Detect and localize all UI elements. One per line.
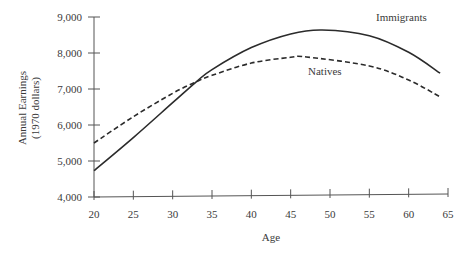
y-tick-label: 8,000 bbox=[57, 47, 82, 59]
immigrants-label: Immigrants bbox=[376, 11, 427, 23]
x-tick-label: 65 bbox=[443, 208, 455, 220]
x-tick-label: 25 bbox=[128, 208, 140, 220]
x-tick-label: 55 bbox=[364, 208, 376, 220]
y-tick-label: 5,000 bbox=[57, 155, 82, 167]
y-tick-label: 7,000 bbox=[57, 83, 82, 95]
axes: 4,0005,0006,0007,0008,0009,0002025303540… bbox=[57, 11, 454, 220]
y-tick-label: 6,000 bbox=[57, 119, 82, 131]
natives-line bbox=[94, 56, 440, 143]
series-lines bbox=[94, 30, 440, 171]
y-axis-label: Annual Earnings bbox=[16, 71, 28, 145]
x-axis bbox=[94, 194, 448, 197]
natives-label: Natives bbox=[308, 65, 342, 77]
y-tick-label: 9,000 bbox=[57, 11, 82, 23]
x-tick-label: 60 bbox=[403, 208, 415, 220]
x-tick-label: 35 bbox=[207, 208, 219, 220]
x-tick-label: 30 bbox=[167, 208, 179, 220]
x-tick-label: 50 bbox=[325, 208, 337, 220]
x-tick-label: 45 bbox=[285, 208, 297, 220]
x-tick-label: 20 bbox=[89, 208, 101, 220]
x-tick-label: 40 bbox=[246, 208, 258, 220]
immigrants-line bbox=[94, 30, 440, 171]
y-tick-label: 4,000 bbox=[57, 191, 82, 203]
y-axis-label-units: (1970 dollars) bbox=[29, 77, 42, 139]
earnings-chart: 4,0005,0006,0007,0008,0009,0002025303540… bbox=[0, 0, 469, 256]
x-axis-label: Age bbox=[262, 231, 280, 243]
